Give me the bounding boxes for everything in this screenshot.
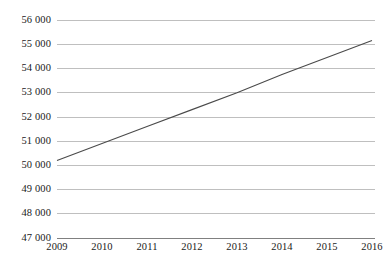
y-tick-label: 52 000 — [0, 112, 51, 123]
x-axis-line — [57, 238, 375, 239]
x-tick-label: 2011 — [124, 241, 170, 252]
y-tick-label: 55 000 — [0, 39, 51, 50]
y-tick-label: 51 000 — [0, 136, 51, 147]
line-chart: 56 000 55 000 54 000 53 000 52 000 51 00… — [0, 0, 386, 269]
y-tick-label: 56 000 — [0, 15, 51, 26]
y-tick-label: 48 000 — [0, 208, 51, 219]
y-tick-label: 50 000 — [0, 160, 51, 171]
x-tick-label: 2010 — [79, 241, 125, 252]
x-tick-label: 2015 — [304, 241, 350, 252]
series-line — [57, 20, 375, 238]
x-tick-label: 2016 — [349, 241, 386, 252]
x-tick-label: 2012 — [169, 241, 215, 252]
plot-area — [57, 20, 375, 238]
y-tick-label: 54 000 — [0, 63, 51, 74]
x-tick-label: 2013 — [214, 241, 260, 252]
series-polyline — [57, 41, 372, 161]
y-tick-label: 49 000 — [0, 184, 51, 195]
x-tick-label: 2009 — [34, 241, 80, 252]
y-tick-label: 53 000 — [0, 87, 51, 98]
x-tick-label: 2014 — [259, 241, 305, 252]
